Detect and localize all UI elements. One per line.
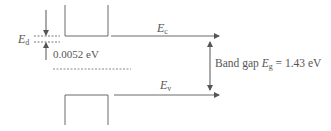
band-diagram: Ec Ed 0.0052 eV Ev Band gap Eg = 1.43 eV (0, 0, 331, 131)
bandgap-label: Band gap Eg = 1.43 eV (215, 57, 322, 71)
ec-label: Ec (156, 21, 168, 36)
ev-label: Ev (159, 78, 171, 93)
conduction-well (65, 5, 108, 36)
valence-well (65, 95, 108, 125)
ed-label: Ed (17, 32, 29, 47)
donor-gap-label: 0.0052 eV (53, 48, 99, 60)
